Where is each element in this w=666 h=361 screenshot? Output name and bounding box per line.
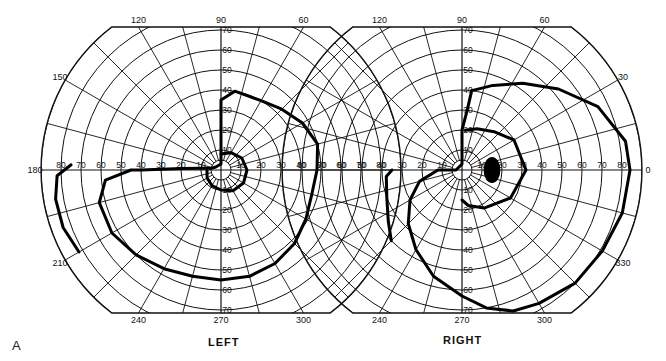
- svg-text:20: 20: [222, 125, 232, 135]
- svg-text:50: 50: [557, 160, 567, 170]
- svg-text:20: 20: [222, 205, 232, 215]
- svg-text:70: 70: [222, 25, 232, 35]
- svg-text:240: 240: [131, 315, 146, 325]
- svg-text:150: 150: [52, 72, 67, 82]
- isopter-line: [56, 165, 79, 252]
- svg-text:30: 30: [618, 72, 628, 82]
- svg-text:80: 80: [297, 160, 307, 170]
- isopter-line: [386, 170, 392, 241]
- svg-text:40: 40: [537, 160, 547, 170]
- svg-text:30: 30: [222, 105, 232, 115]
- svg-text:30: 30: [463, 225, 473, 235]
- right-eye-chart: 1010101020202020303030304040404050505050…: [272, 0, 652, 360]
- svg-text:330: 330: [616, 258, 631, 268]
- visual-field-figure: 1010101020202020303030304040404050505050…: [0, 0, 666, 361]
- svg-text:60: 60: [577, 160, 587, 170]
- svg-text:240: 240: [372, 315, 387, 325]
- svg-text:60: 60: [222, 45, 232, 55]
- blind-spot: [484, 157, 501, 183]
- svg-text:120: 120: [131, 15, 146, 25]
- svg-text:60: 60: [299, 15, 309, 25]
- svg-text:40: 40: [463, 245, 473, 255]
- svg-text:50: 50: [463, 65, 473, 75]
- svg-text:40: 40: [377, 160, 387, 170]
- svg-text:120: 120: [372, 15, 387, 25]
- svg-text:40: 40: [222, 245, 232, 255]
- svg-text:0: 0: [645, 165, 650, 175]
- svg-text:300: 300: [537, 315, 552, 325]
- polar-grid: [272, 0, 652, 360]
- figure-letter: A: [12, 338, 21, 353]
- svg-text:30: 30: [276, 160, 286, 170]
- svg-text:70: 70: [76, 160, 86, 170]
- right-eye-label: RIGHT: [443, 334, 482, 346]
- svg-text:50: 50: [222, 265, 232, 275]
- svg-text:180: 180: [27, 165, 42, 175]
- svg-text:10: 10: [463, 145, 473, 155]
- svg-text:210: 210: [52, 258, 67, 268]
- svg-text:20: 20: [417, 160, 427, 170]
- svg-text:10: 10: [463, 185, 473, 195]
- polar-grid: [31, 0, 411, 360]
- svg-text:80: 80: [617, 160, 627, 170]
- svg-text:70: 70: [222, 305, 232, 315]
- svg-text:30: 30: [222, 225, 232, 235]
- svg-text:90: 90: [216, 15, 226, 25]
- svg-text:70: 70: [463, 25, 473, 35]
- left-eye-label: LEFT: [208, 336, 240, 348]
- svg-text:60: 60: [540, 15, 550, 25]
- left-eye-chart: 1010101020202020303030304040404050505050…: [27, 0, 411, 360]
- svg-text:300: 300: [296, 315, 311, 325]
- svg-text:50: 50: [463, 265, 473, 275]
- isopter-line: [408, 83, 630, 311]
- svg-text:60: 60: [337, 160, 347, 170]
- svg-text:50: 50: [357, 160, 367, 170]
- svg-text:50: 50: [116, 160, 126, 170]
- svg-text:60: 60: [463, 45, 473, 55]
- svg-text:60: 60: [96, 160, 106, 170]
- svg-text:70: 70: [597, 160, 607, 170]
- svg-text:270: 270: [213, 315, 228, 325]
- svg-text:70: 70: [317, 160, 327, 170]
- svg-text:60: 60: [222, 285, 232, 295]
- svg-text:70: 70: [463, 305, 473, 315]
- svg-text:20: 20: [256, 160, 266, 170]
- svg-text:60: 60: [463, 285, 473, 295]
- svg-text:270: 270: [454, 315, 469, 325]
- svg-text:30: 30: [397, 160, 407, 170]
- svg-text:90: 90: [457, 15, 467, 25]
- svg-text:50: 50: [222, 65, 232, 75]
